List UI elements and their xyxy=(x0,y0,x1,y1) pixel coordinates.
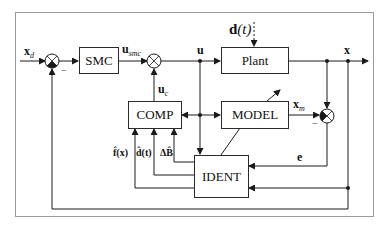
smc-block: SMC xyxy=(79,47,119,74)
label-uc: uc xyxy=(158,83,168,98)
label-disturbance: d(t) xyxy=(229,22,252,37)
label-xm: xm xyxy=(293,98,305,113)
label-usmc: usmc xyxy=(122,43,141,58)
summing-junction-2 xyxy=(147,54,161,68)
comp-block: COMP xyxy=(128,101,182,129)
ident-block: IDENT xyxy=(194,155,249,198)
sum1-minus-sign: − xyxy=(61,66,67,76)
label-u: u xyxy=(197,44,204,56)
label-x: x xyxy=(344,44,350,56)
model-block: MODEL xyxy=(221,101,289,129)
sum3-minus-sign: − xyxy=(312,119,318,129)
summing-junction-1 xyxy=(45,54,59,68)
block-diagram: SMC Plant COMP MODEL IDENT xd − usmc uc … xyxy=(0,0,390,228)
summing-junction-3 xyxy=(320,109,334,123)
plant-block: Plant xyxy=(221,47,289,74)
label-f-hat: f̂(x) xyxy=(113,148,128,158)
label-d-hat: d̂(t) xyxy=(136,148,152,158)
label-delta-b-hat: ΔB̂ xyxy=(160,148,173,158)
label-xd: xd xyxy=(24,45,34,60)
label-e: e xyxy=(297,151,302,163)
